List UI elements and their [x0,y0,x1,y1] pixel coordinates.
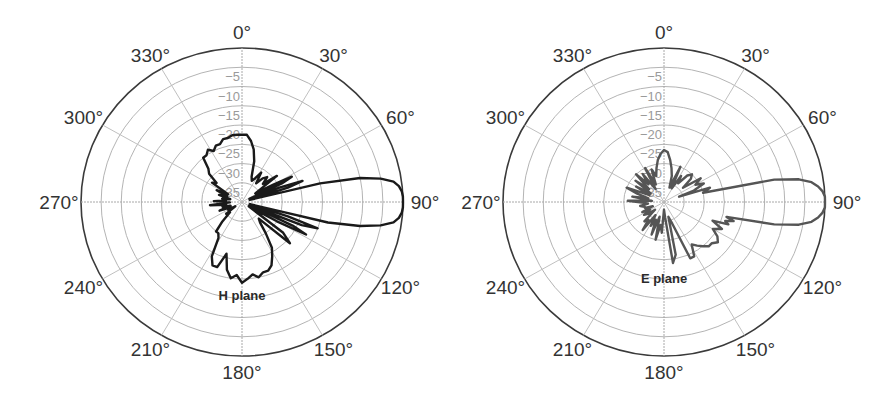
angle-label: 30° [319,45,348,66]
ring-label: −10 [640,89,662,104]
ring-label: −20 [640,127,662,142]
grid-spoke [664,202,803,279]
e-plane-grid [503,48,825,356]
ring-label: −5 [225,69,240,84]
angle-label: 330° [131,45,170,66]
angle-label: 180° [644,362,683,383]
angle-label: 240° [486,277,525,298]
grid-spoke [103,202,242,279]
ring-label: −15 [218,108,240,123]
angle-label: 0° [655,22,673,43]
angle-label: 30° [741,45,770,66]
ring-label: −30 [218,166,240,181]
angle-label: 270° [461,192,500,213]
h-plane-grid [81,48,403,356]
angle-label: 90° [833,192,862,213]
angle-label: 210° [131,339,170,360]
angle-label: 120° [803,277,842,298]
e-plane-label: E plane [641,271,687,286]
angle-label: 330° [553,45,592,66]
ring-label: −15 [640,108,662,123]
grid-spoke [664,125,803,202]
ring-label: −10 [218,89,240,104]
angle-label: 180° [222,362,261,383]
polar-charts: −5−10−15−20−25−30−35 0°30°60°90°120°150°… [0,0,889,410]
angle-label: 270° [39,192,78,213]
ring-label: −25 [218,146,240,161]
angle-label: 210° [553,339,592,360]
ring-label: −5 [647,69,662,84]
grid-spoke [162,202,243,335]
angle-label: 150° [314,339,353,360]
h-plane-chart: −5−10−15−20−25−30−35 0°30°60°90°120°150°… [39,22,439,383]
grid-spoke [525,202,664,279]
e-plane-chart: −5−10−15−20−25−30−35 0°30°60°90°120°150°… [461,22,861,383]
h-plane-label: H plane [219,288,266,303]
angle-label: 60° [386,107,415,128]
angle-label: 150° [736,339,775,360]
angle-label: 300° [64,107,103,128]
angle-label: 240° [64,277,103,298]
angle-label: 120° [381,277,420,298]
angle-label: 90° [411,192,440,213]
angle-label: 0° [233,22,251,43]
angle-label: 60° [808,107,837,128]
angle-label: 300° [486,107,525,128]
